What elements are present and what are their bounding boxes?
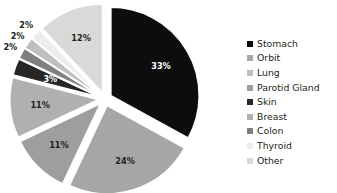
pie-slice-value-label: 11% — [30, 100, 50, 110]
legend-item-label: Skin — [257, 96, 277, 107]
legend-swatch-icon — [247, 55, 253, 61]
pie-chart-plot-area: 33%24%11%11%3%2%2%2%12% — [0, 0, 215, 193]
legend-item[interactable]: Breast — [247, 109, 337, 124]
pie-slice-value-label: 2% — [3, 42, 17, 52]
pie-chart-figure: 33%24%11%11%3%2%2%2%12% StomachOrbitLung… — [0, 0, 337, 193]
legend-item-label: Orbit — [257, 52, 280, 63]
legend-swatch-icon — [247, 158, 253, 164]
chart-legend: StomachOrbitLungParotid GlandSkinBreastC… — [247, 36, 337, 167]
legend-item[interactable]: Thyroid — [247, 138, 337, 153]
legend-swatch-icon — [247, 99, 253, 105]
legend-swatch-icon — [247, 41, 253, 47]
legend-item[interactable]: Lung — [247, 65, 337, 80]
legend-item-label: Parotid Gland — [257, 82, 320, 93]
pie-slice-value-label: 2% — [19, 20, 33, 30]
legend-item[interactable]: Parotid Gland — [247, 80, 337, 95]
pie-slice-value-label: 24% — [115, 156, 135, 166]
legend-item[interactable]: Other — [247, 153, 337, 168]
legend-item-label: Thyroid — [257, 140, 292, 151]
legend-item-label: Stomach — [257, 38, 298, 49]
legend-item-label: Lung — [257, 67, 280, 78]
legend-swatch-icon — [247, 85, 253, 91]
pie-slice-value-label: 2% — [11, 31, 25, 41]
pie-chart-svg: 33%24%11%11%3%2%2%2%12% — [0, 0, 215, 193]
pie-slice-value-label: 33% — [151, 61, 171, 71]
legend-item-label: Breast — [257, 111, 287, 122]
legend-item-label: Colon — [257, 125, 283, 136]
legend-item[interactable]: Orbit — [247, 51, 337, 66]
legend-item-label: Other — [257, 155, 283, 166]
legend-swatch-icon — [247, 128, 253, 134]
pie-slice-value-label: 3% — [43, 74, 57, 84]
pie-slice-value-label: 12% — [71, 33, 91, 43]
legend-item[interactable]: Colon — [247, 124, 337, 139]
legend-item[interactable]: Skin — [247, 94, 337, 109]
legend-swatch-icon — [247, 70, 253, 76]
legend-swatch-icon — [247, 114, 253, 120]
legend-item[interactable]: Stomach — [247, 36, 337, 51]
pie-slices-group — [10, 4, 199, 193]
legend-swatch-icon — [247, 143, 253, 149]
pie-slice-value-label: 11% — [49, 140, 69, 150]
